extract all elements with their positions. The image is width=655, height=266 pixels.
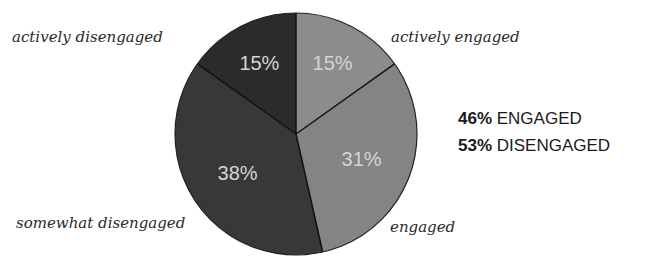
label-somewhat-disengaged: somewhat disengaged — [16, 214, 185, 232]
summary-disengaged-text: DISENGAGED — [492, 136, 610, 155]
label-engaged: engaged — [390, 218, 455, 236]
pie-percent-label: 31% — [342, 148, 382, 170]
summary-engaged-text: ENGAGED — [492, 109, 582, 128]
summary-engaged-value: 46% — [458, 109, 492, 128]
pie-percent-label: 15% — [239, 52, 279, 74]
summary-disengaged: 53% DISENGAGED — [458, 136, 610, 156]
summary-disengaged-value: 53% — [458, 136, 492, 155]
pie-percent-label: 38% — [218, 162, 258, 184]
label-actively-engaged: actively engaged — [391, 28, 520, 46]
label-actively-disengaged: actively disengaged — [12, 28, 163, 46]
pie-percent-label: 15% — [313, 52, 353, 74]
summary-engaged: 46% ENGAGED — [458, 109, 582, 129]
pie-slices — [175, 13, 417, 255]
